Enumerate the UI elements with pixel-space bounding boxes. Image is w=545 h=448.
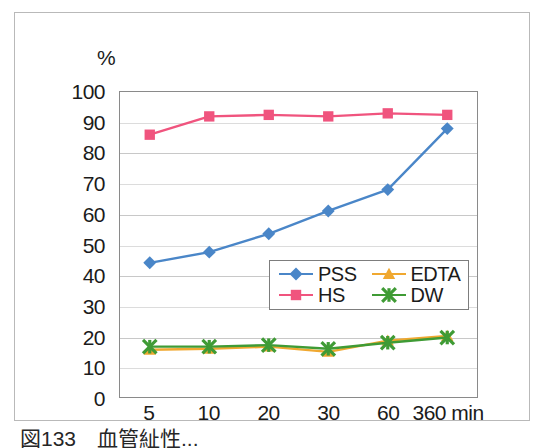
legend-label-hs: HS xyxy=(318,285,345,305)
data-point-hs-1 xyxy=(204,111,214,121)
y-axis-unit-label: % xyxy=(97,46,115,70)
legend-grid: PSSEDTAHSDW xyxy=(278,264,460,305)
legend-label-dw: DW xyxy=(411,285,443,305)
legend-entry-hs[interactable]: HS xyxy=(278,285,357,305)
legend-entry-edta[interactable]: EDTA xyxy=(371,264,461,284)
figure-caption: 図133 血管䊼性... xyxy=(20,428,199,448)
legend-marker-square-icon xyxy=(278,287,314,303)
x-axis-tick-2: 20 xyxy=(257,401,279,425)
data-point-hs-0 xyxy=(145,130,155,140)
data-point-pss-3 xyxy=(322,204,335,217)
y-axis-tick-40: 40 xyxy=(47,265,105,286)
y-axis-tick-10: 10 xyxy=(47,357,105,378)
legend-label-pss: PSS xyxy=(318,264,357,284)
legend-glyph-diamond xyxy=(290,268,303,281)
legend-marker-cross-star-icon xyxy=(371,287,407,303)
series-lines xyxy=(120,92,477,397)
x-axis-tick-4: 60 xyxy=(377,401,399,425)
series-edta xyxy=(144,330,454,357)
series-dw xyxy=(143,331,454,356)
series-hs xyxy=(145,108,453,140)
data-point-hs-3 xyxy=(323,111,333,121)
y-axis-tick-100: 100 xyxy=(47,81,105,102)
legend-entry-pss[interactable]: PSS xyxy=(278,264,357,284)
x-axis-tick-5: 360 min xyxy=(412,401,483,425)
legend-glyph-square xyxy=(291,290,301,300)
legend-entry-dw[interactable]: DW xyxy=(371,285,461,305)
x-axis-tick-3: 30 xyxy=(317,401,339,425)
y-axis-tick-70: 70 xyxy=(47,173,105,194)
legend-marker-diamond-icon xyxy=(278,266,314,282)
y-axis-tick-90: 90 xyxy=(47,111,105,132)
y-axis-tick-80: 80 xyxy=(47,142,105,163)
y-axis-tick-labels: 1009080706050403020100 xyxy=(47,79,105,387)
data-point-pss-2 xyxy=(262,227,275,240)
legend-marker-triangle-icon xyxy=(371,266,407,282)
chart-legend: PSSEDTAHSDW xyxy=(269,260,469,310)
data-point-pss-1 xyxy=(203,246,216,259)
y-axis-tick-30: 30 xyxy=(47,295,105,316)
series-line-pss xyxy=(150,129,448,263)
figure-frame: % 1009080706050403020100 510203060360 mi… xyxy=(14,12,530,421)
series-pss xyxy=(143,122,453,269)
x-axis-tick-1: 10 xyxy=(198,401,220,425)
y-axis-tick-20: 20 xyxy=(47,326,105,347)
y-axis-tick-50: 50 xyxy=(47,234,105,255)
y-axis-tick-60: 60 xyxy=(47,203,105,224)
data-point-hs-4 xyxy=(383,108,393,118)
x-axis-tick-0: 5 xyxy=(143,401,154,425)
series-line-hs xyxy=(150,113,448,134)
data-point-hs-2 xyxy=(264,110,274,120)
plot-area xyxy=(119,91,478,398)
data-point-hs-5 xyxy=(442,110,452,120)
data-point-pss-0 xyxy=(143,256,156,269)
y-axis-tick-0: 0 xyxy=(47,388,105,409)
figure-caption-strip: 図133 血管䊼性... xyxy=(14,428,530,448)
series-line-edta xyxy=(150,336,448,352)
legend-label-edta: EDTA xyxy=(411,264,461,284)
